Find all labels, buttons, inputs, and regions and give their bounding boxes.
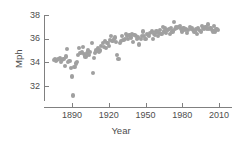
data-point	[151, 37, 155, 41]
data-point	[81, 45, 85, 49]
data-point	[88, 50, 92, 54]
data-point	[172, 20, 176, 24]
plot-area	[0, 0, 243, 144]
data-point	[131, 40, 135, 44]
data-point	[71, 93, 75, 97]
data-point	[92, 56, 96, 60]
data-point	[216, 28, 220, 32]
data-point	[116, 57, 120, 61]
data-point	[63, 64, 67, 68]
data-point	[91, 71, 95, 75]
data-point	[70, 74, 74, 78]
data-point	[107, 44, 111, 48]
y-axis-title: Mph	[14, 50, 24, 68]
data-point	[75, 60, 79, 64]
data-point	[67, 59, 71, 63]
scatter-chart: 32343638 18901920195019802010 Mph Year	[0, 0, 243, 144]
x-axis-title: Year	[111, 126, 130, 136]
data-point	[113, 35, 117, 39]
data-point	[98, 48, 102, 52]
data-point	[90, 41, 94, 45]
data-point	[64, 54, 68, 58]
data-point	[137, 42, 141, 46]
data-point	[65, 47, 69, 51]
